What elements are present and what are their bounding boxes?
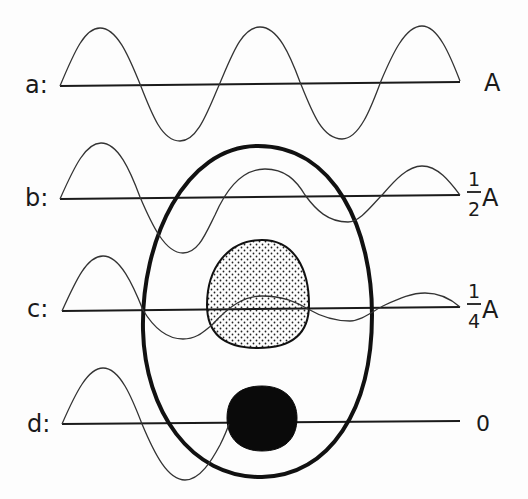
black-body (227, 386, 297, 451)
diagram-canvas: a: b: c: d: A 1 2 A 1 4 A 0 (0, 0, 528, 499)
stippled-nucleus (207, 240, 309, 348)
wave-diagram: a: b: c: d: A 1 2 A 1 4 A 0 (0, 0, 528, 499)
amplitude-a: A (484, 69, 501, 97)
label-d: d: (27, 410, 50, 438)
row-labels: a: b: c: d: (25, 71, 50, 438)
amplitude-b-symbol: A (482, 184, 499, 212)
label-c: c: (27, 295, 48, 323)
amplitude-c-symbol: A (482, 296, 499, 324)
fraction-c-denominator: 4 (468, 310, 480, 332)
label-a: a: (25, 71, 48, 99)
amplitude-b: 1 2 A (467, 168, 499, 220)
fraction-b-numerator: 1 (468, 168, 480, 190)
amplitude-labels: A 1 2 A 1 4 A 0 (467, 69, 501, 436)
label-b: b: (25, 184, 48, 212)
baseline-b (60, 195, 460, 199)
fraction-b-denominator: 2 (468, 198, 480, 220)
fraction-c-numerator: 1 (468, 280, 480, 302)
amplitude-c: 1 4 A (467, 280, 499, 332)
amplitude-d: 0 (476, 411, 490, 436)
baseline-a (60, 82, 460, 86)
